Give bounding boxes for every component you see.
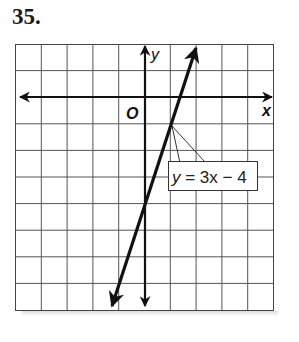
origin-label: O	[126, 105, 139, 122]
callout-pointer	[172, 126, 205, 163]
equation-label: y = 3x − 4	[171, 168, 247, 187]
coordinate-graph: y = 3x − 4 x y O	[0, 0, 299, 342]
x-axis-label: x	[261, 102, 272, 119]
y-axis-label: y	[150, 46, 160, 63]
grid-shadow	[22, 311, 278, 316]
